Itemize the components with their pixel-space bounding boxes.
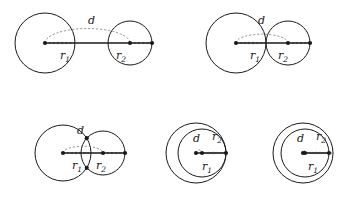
label-r2: r2	[212, 130, 222, 145]
rim-point-r2	[123, 151, 127, 155]
label-d: d	[88, 14, 95, 27]
center-point-c2	[200, 151, 204, 155]
label-r1: r1	[202, 160, 212, 175]
externally-tangent-circles: dr1r2	[206, 13, 312, 73]
center-point-c2	[286, 41, 290, 45]
label-d: d	[258, 14, 265, 27]
label-d: d	[193, 132, 200, 145]
center-point-c1	[194, 151, 198, 155]
label-r1: r1	[308, 160, 318, 175]
rim-point-r2	[224, 151, 228, 155]
two-separate-circles: dr1r2	[15, 13, 154, 73]
d-arc	[236, 34, 288, 43]
center-point-c1	[43, 41, 47, 45]
nested-circles: dr1r2	[273, 123, 333, 183]
label-r2: r2	[278, 49, 288, 64]
label-d: d	[297, 132, 304, 145]
label-r2: r2	[116, 49, 126, 64]
label-d: d	[77, 124, 84, 137]
label-r1: r1	[60, 49, 70, 64]
center-point-c2	[303, 151, 307, 155]
intersection-point-2	[85, 166, 89, 170]
label-r1: r1	[250, 49, 260, 64]
intersecting-circles: dr1r2	[35, 124, 127, 181]
internally-tangent-circles: dr1r2	[166, 123, 228, 183]
center-point-c1	[61, 151, 65, 155]
circle-configurations-diagram: dr1r2dr1r2dr1r2dr1r2dr1r2	[0, 0, 349, 203]
center-point-c2	[101, 151, 105, 155]
center-point-c2	[128, 41, 132, 45]
label-r2: r2	[96, 159, 106, 174]
rim-point-r2	[327, 151, 331, 155]
rim-point-r2	[308, 41, 312, 45]
intersection-point-1	[85, 136, 89, 140]
center-point-c1	[234, 41, 238, 45]
rim-point-r2	[150, 41, 154, 45]
figure-canvas: dr1r2dr1r2dr1r2dr1r2dr1r2	[0, 0, 349, 203]
label-r1: r1	[72, 159, 82, 174]
d-arc	[45, 29, 130, 43]
d-arc	[63, 146, 103, 153]
